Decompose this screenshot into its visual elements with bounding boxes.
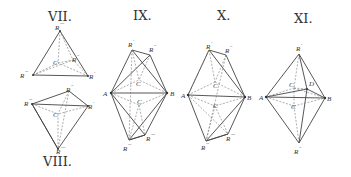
- label-c: C: [53, 111, 58, 119]
- svg-text:'': '': [154, 44, 157, 49]
- svg-text:''': ''': [29, 98, 33, 103]
- svg-text:': ': [211, 41, 213, 46]
- label-a: A: [102, 90, 108, 98]
- polyhedra-diagram: VII. R '''' R ''' R ' R '' C R: [0, 0, 351, 177]
- bipyramid-outline: [266, 54, 325, 143]
- label-c1: C: [289, 81, 294, 89]
- figure-title-ix: IX.: [133, 8, 152, 23]
- label-c2: C: [291, 103, 296, 111]
- label-b: B: [247, 94, 252, 102]
- figure-title-x: X.: [217, 8, 230, 23]
- svg-text:''': ''': [206, 142, 210, 147]
- label-a: A: [180, 92, 186, 100]
- svg-text:': ': [133, 39, 135, 44]
- svg-text:'': '': [299, 146, 302, 151]
- tetrahedron-outline: [33, 31, 88, 76]
- figure-title-viii: VIII.: [42, 154, 72, 169]
- tetrahedron-outline: [32, 91, 88, 149]
- svg-text:'': '': [71, 84, 74, 89]
- label-c2: C: [137, 98, 142, 106]
- svg-text:': ': [94, 71, 96, 76]
- bipyramid-outline: [111, 50, 167, 140]
- svg-text:'''': '''': [151, 133, 156, 138]
- label-a: A: [258, 94, 264, 102]
- figure-viii: R ''' R '' R ' R '''' C VIII.: [23, 84, 95, 169]
- svg-text:'''': '''': [61, 146, 66, 151]
- svg-text:': ': [93, 101, 95, 106]
- figure-ix: IX. R ' R '' R ''' R '''' A B C C: [102, 8, 175, 153]
- svg-text:': ': [301, 43, 303, 48]
- svg-text:''': ''': [128, 143, 132, 148]
- label-c2: C: [213, 102, 218, 110]
- label-b: B: [170, 90, 175, 98]
- svg-text:''': ''': [25, 70, 29, 75]
- label-c1: C: [136, 80, 141, 88]
- figure-vii: VII. R '''' R ''' R ' R '' C: [19, 9, 96, 81]
- label-c1: C: [213, 82, 218, 90]
- label-c: C: [53, 59, 58, 67]
- figure-title-xi: XI.: [294, 11, 313, 26]
- figure-xi: XI. R ' R '' A B C C D: [258, 11, 332, 156]
- svg-text:'': '': [230, 45, 233, 50]
- svg-text:'''': '''': [231, 133, 236, 138]
- svg-text:'': '': [77, 54, 80, 59]
- label-b: B: [327, 95, 332, 103]
- label-d: D: [308, 80, 314, 88]
- figure-x: X. R ' R '' R ''' R '''' A B C C: [180, 8, 252, 152]
